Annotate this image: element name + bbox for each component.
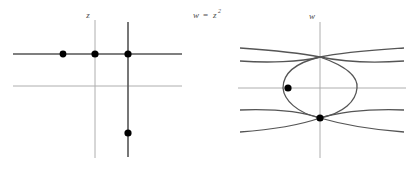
- map-label-group: w = z 2: [193, 8, 221, 20]
- w-axis-label: w: [309, 11, 315, 21]
- left-panel-z-plane: z: [13, 10, 182, 158]
- right-image-point-bottom: [316, 114, 323, 121]
- left-point-c: [124, 50, 131, 57]
- figure-container: z w = z 2 w: [0, 0, 417, 170]
- left-point-b: [91, 50, 98, 57]
- left-point-a: [60, 51, 67, 58]
- figure-svg: z w = z 2 w: [0, 0, 417, 170]
- left-point-d: [124, 129, 131, 136]
- right-panel-w-plane: w: [238, 11, 406, 158]
- map-label-equals: =: [203, 10, 208, 20]
- map-label-w: w: [193, 10, 199, 20]
- z-axis-label: z: [85, 10, 90, 20]
- map-label-z: z: [212, 10, 217, 20]
- right-image-point-left: [284, 84, 291, 91]
- map-label-exponent: 2: [218, 8, 221, 14]
